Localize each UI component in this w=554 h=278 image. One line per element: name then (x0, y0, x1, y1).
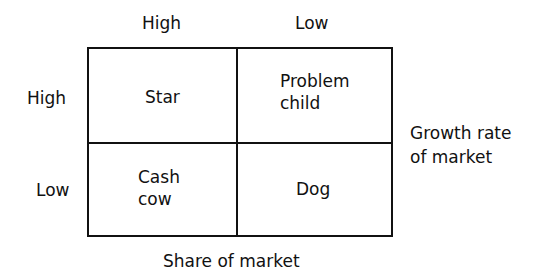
cell-dog: Dog (296, 178, 330, 200)
matrix-horizontal-divider (87, 142, 393, 144)
cell-star: Star (145, 86, 180, 108)
cell-problem-child-line1: Problem (280, 70, 350, 92)
cell-star-label: Star (145, 87, 180, 107)
y-axis-label: Growth rate of market (410, 121, 511, 169)
cell-dog-label: Dog (296, 179, 330, 199)
column-header-high: High (142, 13, 181, 33)
row-header-high: High (27, 88, 66, 108)
cell-cash-cow-line2: cow (138, 188, 180, 210)
row-header-low: Low (36, 180, 69, 200)
y-axis-label-line2: of market (410, 145, 511, 169)
column-header-low: Low (295, 13, 328, 33)
cell-problem-child-line2: child (280, 92, 350, 114)
cell-problem-child: Problem child (280, 70, 350, 114)
cell-cash-cow-line1: Cash (138, 166, 180, 188)
cell-cash-cow: Cash cow (138, 166, 180, 210)
x-axis-label: Share of market (163, 251, 300, 271)
y-axis-label-line1: Growth rate (410, 121, 511, 145)
